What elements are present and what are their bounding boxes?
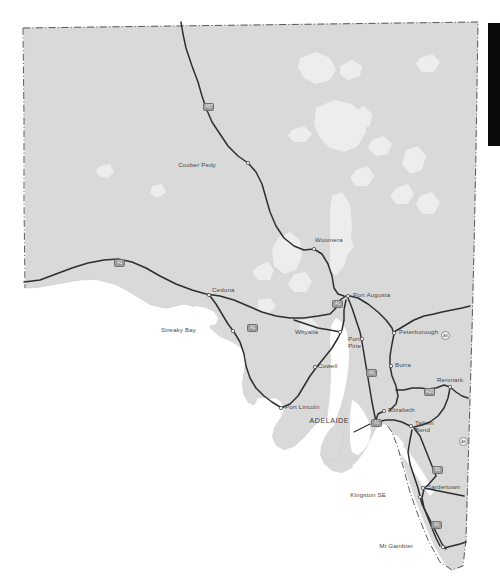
city-label-streaky-bay: Streaky Bay — [161, 326, 196, 333]
city-label-tailem-bend: TailemBend — [415, 420, 434, 433]
city-marker-ceduna[interactable] — [207, 293, 210, 296]
city-label-coober-pedy: Coober Pedy — [178, 161, 216, 168]
route-shield-a8[interactable]: A8 — [441, 331, 450, 340]
city-label-line2: Bend — [415, 427, 434, 434]
route-shield-a1[interactable]: A1 — [366, 369, 377, 377]
city-marker-tailem-bend[interactable] — [409, 424, 412, 427]
city-label-port-pirie: PortPirie — [348, 336, 361, 349]
city-marker-woomera[interactable] — [312, 247, 315, 250]
route-shield-a8[interactable]: A8 — [459, 437, 468, 446]
city-label-woomera: Woomera — [315, 236, 343, 243]
city-label-burra: Burra — [395, 361, 411, 368]
city-marker-whyalla[interactable] — [338, 330, 341, 333]
city-marker-coober-pedy[interactable] — [246, 161, 249, 164]
city-label-elizabeth: Elizabeth — [388, 406, 415, 413]
city-label-kingston-se: Kingston SE — [350, 491, 386, 498]
route-shield-a1[interactable]: A1 — [431, 521, 442, 529]
city-marker-kingston-se[interactable] — [418, 495, 421, 498]
city-label-mt-gambier: Mt Gambier — [379, 542, 413, 549]
city-label-line2: Pirie — [348, 343, 361, 350]
city-marker-burra[interactable] — [389, 364, 392, 367]
route-shield-b1[interactable]: B1 — [432, 466, 443, 474]
city-marker-renmark[interactable] — [448, 385, 451, 388]
city-label-cowell: Cowell — [318, 362, 337, 369]
map-graphics — [0, 0, 500, 582]
city-marker-cowell[interactable] — [313, 365, 316, 368]
city-label-bardertown: Bardertown — [427, 483, 460, 490]
route-shield-a87[interactable]: A87 — [203, 103, 214, 111]
city-marker-elizabeth[interactable] — [382, 409, 385, 412]
route-shield-a20[interactable]: A20 — [424, 388, 435, 396]
route-shield-a1[interactable]: A1 — [114, 259, 125, 267]
city-label-port-lincoln: Port Lincoln — [285, 403, 319, 410]
right-edge-bar — [488, 23, 500, 146]
city-label-whyalla: Whyalla — [295, 328, 318, 335]
city-label-peterborough: Peterborough — [399, 328, 438, 335]
route-shield-a1[interactable]: A1 — [371, 419, 382, 427]
city-marker-port-lincoln[interactable] — [279, 406, 282, 409]
city-marker-peterborough[interactable] — [392, 331, 395, 334]
city-marker-mt-gambier[interactable] — [441, 545, 444, 548]
city-marker-bardertown[interactable] — [421, 486, 424, 489]
route-shield-a1[interactable]: A1 — [247, 324, 258, 332]
city-marker-port-augusta[interactable] — [346, 294, 349, 297]
city-label-adelaide: ADELAIDE — [309, 417, 349, 425]
city-marker-streaky-bay[interactable] — [231, 329, 234, 332]
route-shield-a1[interactable]: A1 — [332, 300, 343, 308]
map-canvas[interactable]: Coober PedyWoomeraPort AugustaCedunaStre… — [0, 0, 500, 582]
city-label-ceduna: Ceduna — [212, 286, 235, 293]
city-label-renmark: Renmark — [437, 376, 463, 383]
city-label-port-augusta: Port Augusta — [353, 291, 390, 298]
